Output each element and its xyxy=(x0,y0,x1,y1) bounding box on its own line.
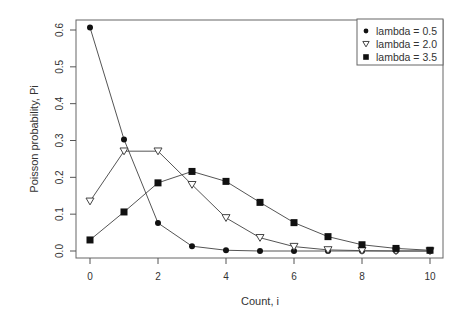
x-axis-label: Count, i xyxy=(241,295,279,307)
data-point-square xyxy=(359,241,366,248)
y-tick-label: 0.6 xyxy=(54,23,65,37)
data-point-square xyxy=(291,219,298,226)
data-point-triangle xyxy=(222,215,230,222)
data-point-circle xyxy=(87,24,93,30)
data-point-square xyxy=(223,178,230,185)
legend: lambda = 0.5lambda = 2.0lambda = 3.5 xyxy=(357,19,443,65)
data-point-circle xyxy=(257,248,263,254)
y-tick-label: 0.3 xyxy=(54,133,65,147)
data-point-square xyxy=(87,236,94,243)
data-point-circle xyxy=(121,136,127,142)
y-tick-label: 0.0 xyxy=(54,244,65,258)
x-tick-label: 6 xyxy=(291,271,297,282)
x-tick-label: 8 xyxy=(359,271,365,282)
x-tick-label: 4 xyxy=(223,271,229,282)
x-tick-label: 0 xyxy=(87,271,93,282)
data-point-square xyxy=(393,245,400,252)
y-tick-label: 0.4 xyxy=(54,96,65,110)
data-point-circle xyxy=(364,29,369,34)
data-point-square xyxy=(155,179,162,186)
y-axis: 0.00.10.20.30.40.50.6 xyxy=(54,23,76,258)
legend-label: lambda = 3.5 xyxy=(376,51,437,63)
data-point-square xyxy=(121,208,128,215)
data-point-triangle xyxy=(256,235,264,242)
data-point-square xyxy=(257,199,264,206)
data-point-circle xyxy=(223,247,229,253)
data-point-square xyxy=(363,54,369,60)
x-tick-label: 10 xyxy=(424,271,436,282)
data-point-circle xyxy=(155,220,161,226)
x-axis: 0246810 xyxy=(87,258,436,282)
y-tick-label: 0.2 xyxy=(54,170,65,184)
y-tick-label: 0.5 xyxy=(54,59,65,73)
y-axis-label: Poisson probability, Pi xyxy=(28,85,40,192)
poisson-chart: 0.00.10.20.30.40.50.6 0246810 Poisson pr… xyxy=(0,0,465,326)
y-tick-label: 0.1 xyxy=(54,207,65,221)
x-tick-label: 2 xyxy=(155,271,161,282)
data-point-square xyxy=(189,168,196,175)
legend-label: lambda = 2.0 xyxy=(376,38,437,50)
legend-label: lambda = 0.5 xyxy=(376,25,437,37)
data-point-square xyxy=(325,233,332,240)
data-point-circle xyxy=(189,243,195,249)
data-point-triangle xyxy=(86,198,94,205)
data-point-square xyxy=(427,247,434,254)
